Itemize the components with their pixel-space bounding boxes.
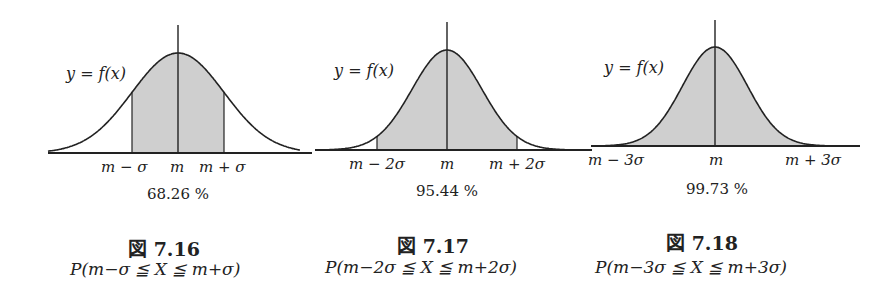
caption-number: 7.17 (423, 235, 469, 257)
plot-fig-7-16 (48, 25, 312, 153)
tick-label-mean: m (170, 158, 184, 176)
tick-label-left: m − 2σ (349, 155, 405, 173)
caption-prefix: 図 (128, 238, 147, 260)
tick-label-mean: m (440, 155, 454, 173)
percentage-label: 68.26 % (147, 185, 209, 203)
tick-label-right: m + 3σ (785, 151, 841, 169)
caption-prefix: 図 (397, 235, 416, 257)
curve-label: y = f(x) (604, 58, 664, 77)
caption-number: 7.16 (154, 238, 200, 260)
figure-caption-number: 図 7.16 (128, 234, 200, 261)
figure-caption-formula: P(m−σ ≦ X ≦ m+σ) (70, 259, 240, 279)
plot-fig-7-18 (591, 20, 860, 146)
percentage-label: 99.73 % (686, 180, 748, 198)
curve-label: y = f(x) (66, 64, 126, 83)
figure-caption-number: 図 7.18 (666, 228, 738, 255)
figure-set: y = f(x) m − σ m m + σ 68.26 % 図 7.16 P(… (0, 0, 891, 288)
caption-prefix: 図 (666, 232, 685, 254)
tick-label-mean: m (709, 151, 723, 169)
curve-label: y = f(x) (334, 61, 394, 80)
tick-label-right: m + σ (199, 158, 246, 176)
figure-caption-formula: P(m−3σ ≦ X ≦ m+3σ) (595, 257, 787, 277)
plot-fig-7-17 (315, 22, 592, 150)
percentage-label: 95.44 % (416, 182, 478, 200)
figure-caption-formula: P(m−2σ ≦ X ≦ m+2σ) (325, 257, 517, 277)
tick-label-left: m − 3σ (588, 151, 644, 169)
tick-label-left: m − σ (101, 158, 148, 176)
figure-caption-number: 図 7.17 (397, 231, 469, 258)
caption-number: 7.18 (692, 232, 738, 254)
tick-label-right: m + 2σ (489, 155, 545, 173)
